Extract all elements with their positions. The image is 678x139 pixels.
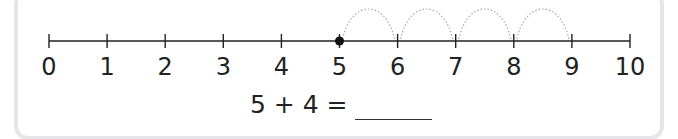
start-point-marker [335, 37, 344, 46]
tick-label-10: 10 [615, 53, 646, 81]
jump-arc-3 [459, 9, 511, 39]
answer-blank[interactable] [355, 119, 432, 120]
tick-label-2: 2 [158, 53, 173, 81]
tick-label-0: 0 [41, 53, 56, 81]
tick-label-1: 1 [99, 53, 114, 81]
jump-arc-2 [401, 9, 453, 39]
jump-arc-1 [343, 9, 395, 39]
tick-label-4: 4 [274, 53, 289, 81]
tick-label-3: 3 [216, 53, 231, 81]
tick-label-9: 9 [564, 53, 579, 81]
jump-arc-4 [517, 9, 569, 39]
tick-label-5: 5 [332, 53, 347, 81]
equation-text: 5 + 4 = [250, 90, 348, 119]
tick-label-7: 7 [448, 53, 463, 81]
tick-label-6: 6 [390, 53, 405, 81]
tick-label-8: 8 [506, 53, 521, 81]
